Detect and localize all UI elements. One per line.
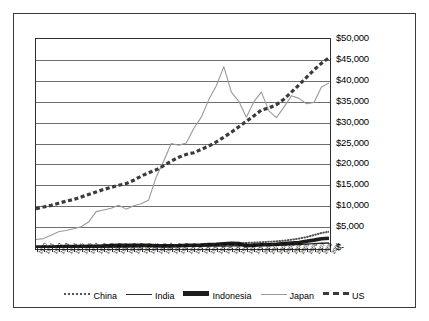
series-line-japan — [36, 67, 329, 240]
legend-item-china[interactable]: China — [64, 291, 117, 301]
y-axis-tick-label: $10,000 — [336, 200, 369, 210]
legend-swatch-china — [64, 293, 90, 301]
chart-legend: ChinaIndiaIndonesiaJapanUS — [13, 288, 416, 304]
legend-item-india[interactable]: India — [126, 291, 175, 301]
y-axis-tick-label: $20,000 — [336, 158, 369, 168]
y-axis-tick-label: $35,000 — [336, 96, 369, 106]
plot-area — [35, 38, 331, 250]
y-axis-tick-label: $30,000 — [336, 117, 369, 127]
legend-label: US — [352, 291, 365, 301]
legend-item-indonesia[interactable]: Indonesia — [183, 290, 251, 302]
y-axis-labels: $-$5,000$10,000$15,000$20,000$25,000$30,… — [336, 30, 422, 258]
legend-item-japan[interactable]: Japan — [261, 291, 315, 301]
legend-swatch-japan — [261, 294, 287, 301]
y-axis-tick-label: $50,000 — [336, 33, 369, 43]
series-line-us — [36, 58, 329, 209]
legend-label: Japan — [290, 291, 315, 301]
legend-swatch-india — [126, 294, 152, 301]
legend-label: China — [93, 291, 117, 301]
y-axis-tick-label: $40,000 — [336, 75, 369, 85]
chart-container: $-$5,000$10,000$15,000$20,000$25,000$30,… — [0, 0, 429, 321]
x-axis-labels: 1970197119721973197419751976197719781979… — [35, 252, 335, 286]
legend-label: Indonesia — [212, 291, 251, 301]
y-axis-tick-label: $15,000 — [336, 179, 369, 189]
legend-item-us[interactable]: US — [323, 291, 365, 301]
series-lines — [36, 39, 329, 248]
legend-label: India — [155, 291, 175, 301]
y-axis-tick-label: $45,000 — [336, 54, 369, 64]
y-axis-tick-label: $25,000 — [336, 138, 369, 148]
legend-swatch-us — [323, 292, 349, 301]
legend-swatch-indonesia — [183, 291, 209, 302]
y-axis-tick-label: $5,000 — [336, 221, 364, 231]
